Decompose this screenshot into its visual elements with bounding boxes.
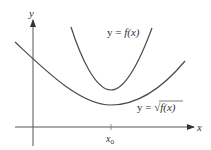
function-graph: y x x0 y = f(x) y = √f(x) bbox=[0, 0, 211, 150]
x-axis-label: x bbox=[196, 121, 202, 133]
curve-f-label: y = f(x) bbox=[107, 26, 140, 39]
y-axis-label: y bbox=[28, 7, 34, 19]
curve-sqrt-f bbox=[15, 42, 185, 105]
x0-tick-label: x0 bbox=[105, 133, 114, 146]
curve-sqrt-f-label: y = √f(x) bbox=[137, 101, 176, 114]
